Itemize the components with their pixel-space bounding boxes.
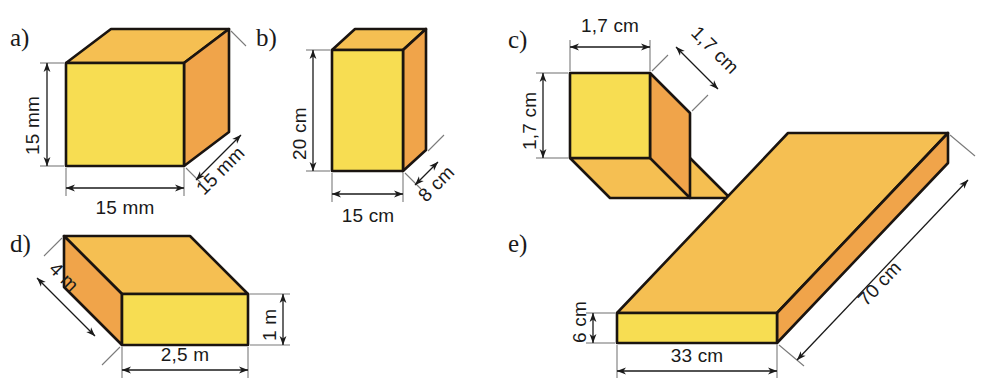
shape-d-depth-ext-upper bbox=[44, 238, 62, 256]
shape-d-height-label: 1 m bbox=[259, 309, 280, 341]
shape-c-width-label: 1,7 cm bbox=[581, 15, 639, 36]
shape-e: 6 cm 33 cm 70 cm e) bbox=[508, 133, 975, 378]
shape-b-body bbox=[332, 29, 426, 171]
shape-e-width-label: 33 cm bbox=[671, 345, 724, 366]
shape-d-letter: d) bbox=[10, 230, 31, 258]
shape-d-width-label: 2,5 m bbox=[161, 344, 210, 365]
shape-a-width-label: 15 mm bbox=[95, 197, 154, 218]
shape-a: 15 mm 15 mm 15 mm a) bbox=[10, 24, 249, 218]
shape-c-body bbox=[570, 73, 730, 198]
shape-a-height-label: 15 mm bbox=[22, 96, 43, 155]
shape-c-bottom-face bbox=[570, 158, 730, 198]
shape-c-height-label: 1,7 cm bbox=[519, 92, 540, 150]
shape-b-height-label: 20 cm bbox=[289, 107, 310, 160]
shape-b-letter: b) bbox=[256, 24, 277, 52]
shape-a-body bbox=[66, 29, 229, 166]
shape-c-depth-label: 1,7 cm bbox=[687, 22, 743, 78]
shape-e-front-face bbox=[617, 313, 777, 343]
shape-e-letter: e) bbox=[508, 230, 527, 258]
shape-e-depth-ext-lower bbox=[779, 345, 804, 366]
shape-e-depth-ext-upper bbox=[950, 135, 975, 156]
shape-b-depth-ext-upper bbox=[428, 135, 444, 151]
shape-d-front-face bbox=[122, 294, 248, 345]
shape-b: 20 cm 15 cm 8 cm b) bbox=[256, 24, 459, 226]
shape-d: 4 m 1 m 2,5 m d) bbox=[10, 230, 290, 378]
shape-c: 1,7 cm 1,7 cm 1,7 cm c) bbox=[508, 15, 743, 198]
shape-b-side-face bbox=[403, 29, 426, 171]
shape-e-depth-label: 70 cm bbox=[854, 257, 906, 310]
shape-e-height-label: 6 cm bbox=[569, 301, 590, 343]
shape-b-width-label: 15 cm bbox=[342, 205, 395, 226]
shape-c-depth-ext-lower bbox=[692, 95, 708, 111]
shape-c-letter: c) bbox=[508, 26, 527, 54]
diagram-canvas: 15 mm 15 mm 15 mm a) 20 cm bbox=[0, 0, 985, 385]
shape-d-depth-ext-lower bbox=[102, 347, 120, 365]
shape-a-depth-ext-upper bbox=[231, 31, 246, 46]
shape-a-front-face bbox=[66, 63, 184, 166]
shape-c-front-face bbox=[570, 73, 650, 158]
shape-b-front-face bbox=[332, 50, 403, 171]
shape-a-letter: a) bbox=[10, 24, 29, 52]
shape-d-body bbox=[64, 236, 248, 345]
prisms-figure: 15 mm 15 mm 15 mm a) 20 cm bbox=[0, 0, 985, 385]
shape-b-depth-label: 8 cm bbox=[414, 161, 459, 206]
shape-c-depth-ext-upper bbox=[652, 55, 668, 71]
